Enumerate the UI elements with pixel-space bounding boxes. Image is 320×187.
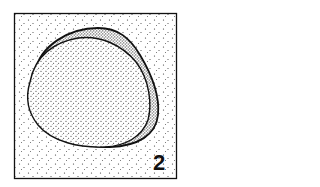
figure-number-label: 2: [153, 152, 165, 174]
